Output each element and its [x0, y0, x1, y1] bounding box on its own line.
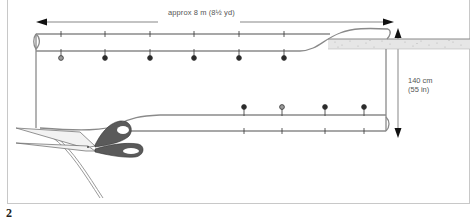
height-label: 140 cm (55 in)	[408, 76, 433, 94]
pin	[242, 105, 247, 116]
step-number: 2	[6, 206, 12, 221]
height-label-imperial: (55 in)	[408, 85, 433, 94]
height-label-metric: 140 cm	[408, 76, 433, 85]
bottom-pins	[242, 105, 367, 116]
pin	[323, 105, 328, 116]
fabric-diagram	[0, 0, 471, 221]
pin	[362, 105, 367, 116]
fabric-bolt	[328, 39, 470, 49]
width-dimension-arrow	[36, 19, 394, 26]
pin	[280, 105, 285, 116]
width-label: approx 8 m (8½ yd)	[168, 8, 235, 17]
scissors-icon	[16, 121, 143, 157]
